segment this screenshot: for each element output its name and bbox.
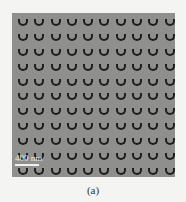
u-shape-structure xyxy=(132,93,142,100)
u-shape-structure xyxy=(165,138,175,145)
array-cell xyxy=(14,135,30,150)
u-shape-structure xyxy=(18,19,28,26)
array-cell xyxy=(128,120,144,135)
array-cell xyxy=(128,76,144,91)
array-cell xyxy=(79,105,95,120)
u-shape-structure xyxy=(34,79,44,86)
u-shape-structure xyxy=(34,123,44,130)
array-cell xyxy=(30,165,46,177)
u-shape-structure xyxy=(132,19,142,26)
array-cell xyxy=(144,76,160,91)
array-cell xyxy=(47,150,63,165)
u-shape-structure xyxy=(116,153,126,160)
array-cell xyxy=(128,90,144,105)
array-cell xyxy=(95,61,111,76)
array-cell xyxy=(79,76,95,91)
u-shape-structure xyxy=(116,93,126,100)
array-cell xyxy=(14,61,30,76)
u-shape-structure xyxy=(18,168,28,175)
array-cell xyxy=(79,135,95,150)
u-shape-structure xyxy=(67,93,77,100)
u-shape-structure xyxy=(116,49,126,56)
u-shape-structure xyxy=(99,93,109,100)
array-cell xyxy=(47,16,63,31)
u-shape-structure xyxy=(116,168,126,175)
u-shape-structure xyxy=(51,108,61,115)
array-cell xyxy=(63,120,79,135)
u-shape-structure xyxy=(165,19,175,26)
u-shape-structure xyxy=(18,34,28,41)
array-cell xyxy=(14,46,30,61)
array-cell xyxy=(63,90,79,105)
u-shape-structure xyxy=(83,123,93,130)
u-shape-structure xyxy=(51,49,61,56)
u-shape-structure xyxy=(51,153,61,160)
u-shape-structure xyxy=(99,34,109,41)
u-shape-structure xyxy=(83,64,93,71)
u-shape-structure xyxy=(51,79,61,86)
array-cell xyxy=(14,105,30,120)
u-shape-structure xyxy=(34,19,44,26)
u-shape-structure xyxy=(132,64,142,71)
u-shape-structure xyxy=(83,49,93,56)
array-cell xyxy=(30,135,46,150)
u-shape-structure xyxy=(99,64,109,71)
u-shape-structure xyxy=(99,153,109,160)
array-cell xyxy=(128,46,144,61)
u-shape-structure xyxy=(116,34,126,41)
array-cell xyxy=(47,76,63,91)
u-shape-structure xyxy=(165,79,175,86)
u-shape-structure xyxy=(51,19,61,26)
u-shape-structure xyxy=(132,153,142,160)
u-shape-structure xyxy=(34,93,44,100)
u-shape-structure xyxy=(18,79,28,86)
array-cell xyxy=(161,76,175,91)
array-cell xyxy=(112,46,128,61)
u-shape-structure xyxy=(132,138,142,145)
u-shape-structure xyxy=(148,108,158,115)
array-cell xyxy=(161,90,175,105)
array-cell xyxy=(161,150,175,165)
array-cell xyxy=(63,61,79,76)
array-cell xyxy=(95,76,111,91)
u-shape-structure xyxy=(67,79,77,86)
array-cell xyxy=(112,135,128,150)
u-shape-structure xyxy=(83,153,93,160)
u-shape-structure xyxy=(148,123,158,130)
array-cell xyxy=(161,105,175,120)
u-shape-structure xyxy=(34,138,44,145)
u-shape-structure xyxy=(99,123,109,130)
u-shape-structure xyxy=(116,108,126,115)
array-cell xyxy=(47,120,63,135)
array-cell xyxy=(161,61,175,76)
array-cell xyxy=(128,150,144,165)
array-cell xyxy=(144,105,160,120)
u-shape-structure xyxy=(83,79,93,86)
array-cell xyxy=(47,46,63,61)
array-cell xyxy=(161,135,175,150)
array-cell xyxy=(47,135,63,150)
array-cell xyxy=(95,120,111,135)
array-cell xyxy=(30,120,46,135)
array-cell xyxy=(95,165,111,177)
u-shape-structure xyxy=(165,64,175,71)
array-cell xyxy=(128,16,144,31)
array-cell xyxy=(30,16,46,31)
array-cell xyxy=(144,61,160,76)
array-cell xyxy=(79,31,95,46)
u-shape-structure xyxy=(83,34,93,41)
array-cell xyxy=(95,105,111,120)
array-cell xyxy=(144,16,160,31)
u-shape-structure xyxy=(165,108,175,115)
u-shape-structure xyxy=(51,64,61,71)
array-cell xyxy=(79,61,95,76)
u-shape-structure xyxy=(34,49,44,56)
u-shape-structure xyxy=(99,138,109,145)
u-shape-structure xyxy=(67,168,77,175)
u-shape-structure xyxy=(34,34,44,41)
u-shape-structure xyxy=(165,168,175,175)
array-cell xyxy=(161,165,175,177)
array-cell xyxy=(47,90,63,105)
u-shape-structure xyxy=(132,79,142,86)
array-cell xyxy=(112,31,128,46)
